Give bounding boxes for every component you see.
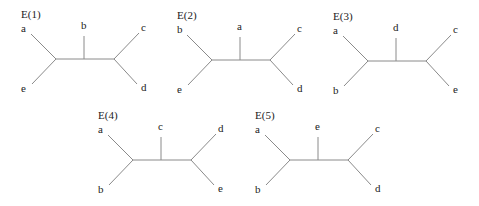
- tree-title: E(3): [333, 10, 353, 23]
- edge-top-left: [343, 36, 368, 61]
- leaf-label-middle: a: [237, 20, 242, 32]
- edge-bottom-right: [270, 60, 293, 85]
- leaf-label-top-left: a: [21, 22, 26, 34]
- leaf-label-bottom-left: e: [177, 83, 182, 95]
- tree-4: E(4)abcde: [98, 109, 224, 195]
- leaf-label-bottom-left: b: [255, 183, 261, 195]
- edge-top-right: [270, 34, 295, 60]
- leaf-label-bottom-left: b: [333, 84, 339, 96]
- leaf-label-top-left: a: [255, 123, 260, 135]
- leaf-label-bottom-right: e: [453, 83, 458, 95]
- edge-top-right: [114, 33, 139, 59]
- leaf-label-top-right: c: [141, 21, 146, 33]
- tree-diagram: E(1)aebcdE(2)beacdE(3)abdceE(4)abcdeE(5)…: [0, 0, 479, 206]
- tree-title: E(1): [21, 8, 41, 21]
- leaf-label-middle: b: [81, 19, 87, 31]
- tree-5: E(5)abecd: [255, 109, 381, 195]
- leaf-label-top-left: b: [177, 23, 183, 35]
- tree-title: E(4): [98, 109, 118, 122]
- edge-bottom-right: [426, 61, 449, 86]
- edge-bottom-left: [32, 59, 56, 84]
- edge-bottom-right: [348, 160, 371, 185]
- leaf-label-bottom-right: d: [375, 182, 381, 194]
- leaf-label-middle: d: [393, 21, 399, 33]
- leaf-label-top-right: c: [375, 122, 380, 134]
- edge-bottom-right: [114, 59, 137, 84]
- edge-bottom-left: [188, 60, 212, 85]
- edge-top-left: [187, 35, 212, 60]
- leaf-label-top-right: c: [297, 22, 302, 34]
- leaf-label-top-left: a: [98, 123, 103, 135]
- edge-top-right: [348, 134, 373, 160]
- edge-bottom-right: [191, 160, 214, 185]
- leaf-label-bottom-right: d: [141, 81, 147, 93]
- leaf-label-bottom-right: d: [297, 82, 303, 94]
- tree-title: E(5): [255, 109, 275, 122]
- edge-top-right: [191, 134, 216, 160]
- leaf-label-top-right: c: [453, 23, 458, 35]
- leaf-label-bottom-left: b: [98, 183, 104, 195]
- edge-top-left: [31, 34, 56, 59]
- leaf-label-top-left: a: [333, 24, 338, 36]
- tree-3: E(3)abdce: [333, 10, 458, 96]
- edge-top-left: [265, 135, 290, 160]
- leaf-label-bottom-left: e: [21, 82, 26, 94]
- tree-1: E(1)aebcd: [21, 8, 147, 94]
- edge-bottom-left: [344, 61, 368, 86]
- leaf-label-top-right: d: [218, 122, 224, 134]
- edge-top-left: [108, 135, 133, 160]
- tree-2: E(2)beacd: [177, 9, 303, 95]
- leaf-label-middle: e: [315, 120, 320, 132]
- leaf-label-middle: c: [158, 120, 163, 132]
- edge-bottom-left: [109, 160, 133, 185]
- edge-bottom-left: [266, 160, 290, 185]
- tree-title: E(2): [177, 9, 197, 22]
- leaf-label-bottom-right: e: [218, 182, 223, 194]
- edge-top-right: [426, 35, 451, 61]
